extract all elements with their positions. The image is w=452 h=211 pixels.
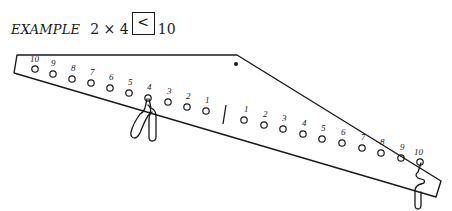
svg-text:3: 3	[166, 86, 172, 96]
right-peg-6[interactable]: 6	[339, 127, 346, 146]
right-peg-2[interactable]: 2	[261, 109, 268, 128]
svg-text:5: 5	[128, 77, 133, 87]
right-peg-7[interactable]: 7	[359, 132, 366, 151]
left-peg-7[interactable]: 7	[88, 67, 95, 86]
svg-text:2: 2	[186, 91, 191, 101]
right-peg-4[interactable]: 4	[300, 118, 307, 137]
left-peg-10[interactable]: 10	[30, 54, 40, 72]
right-peg-10[interactable]: 10	[414, 147, 424, 165]
svg-text:8: 8	[71, 63, 76, 73]
svg-text:7: 7	[90, 67, 95, 77]
svg-text:9: 9	[400, 142, 405, 152]
center-divider	[223, 105, 226, 124]
left-peg-2[interactable]: 2	[184, 91, 191, 110]
svg-text:1: 1	[244, 104, 249, 114]
right-peg-5[interactable]: 5	[319, 123, 326, 142]
left-weight-hooks[interactable]	[131, 99, 156, 141]
right-peg-3[interactable]: 3	[280, 113, 287, 132]
left-peg-8[interactable]: 8	[69, 63, 76, 82]
svg-text:6: 6	[341, 127, 346, 137]
svg-text:9: 9	[51, 58, 56, 68]
pivot-dot	[234, 62, 238, 66]
right-peg-1[interactable]: 1	[241, 104, 249, 123]
right-peg-9[interactable]: 9	[398, 142, 405, 161]
svg-text:4: 4	[147, 82, 152, 92]
balance-beam	[14, 55, 441, 197]
left-peg-1[interactable]: 1	[203, 95, 210, 114]
left-arm-pegs: 10 9 8 7 6 5 4 3 2 1	[30, 54, 210, 114]
svg-text:1: 1	[205, 95, 210, 105]
svg-text:8: 8	[380, 137, 385, 147]
svg-text:10: 10	[30, 54, 40, 64]
left-peg-4[interactable]: 4	[145, 82, 152, 101]
right-peg-8[interactable]: 8	[378, 137, 385, 156]
left-peg-3[interactable]: 3	[165, 86, 172, 105]
left-peg-6[interactable]: 6	[107, 72, 114, 91]
balance-diagram: 10 9 8 7 6 5 4 3 2 1 1 2 3 4 5 6 7 8 9 1…	[0, 0, 452, 211]
svg-text:2: 2	[263, 109, 268, 119]
svg-text:7: 7	[361, 132, 366, 142]
svg-text:4: 4	[302, 118, 307, 128]
svg-text:6: 6	[109, 72, 114, 82]
svg-text:3: 3	[281, 113, 287, 123]
svg-text:5: 5	[321, 123, 326, 133]
svg-text:10: 10	[414, 147, 424, 157]
left-peg-5[interactable]: 5	[126, 77, 133, 96]
left-peg-9[interactable]: 9	[50, 58, 56, 77]
